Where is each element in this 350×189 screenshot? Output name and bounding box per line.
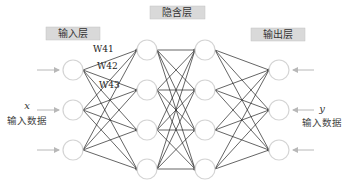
- hidden-layer-label-text: 隐含层: [162, 6, 192, 18]
- node-hidden2-1: [195, 80, 215, 100]
- output-layer-label: 输出层: [251, 28, 305, 41]
- output-layer-label-text: 输出层: [263, 28, 293, 40]
- node-output-1: [269, 100, 289, 120]
- node-input-2: [63, 140, 83, 160]
- edge-input-2-hidden1-3: [83, 150, 137, 169]
- node-output-0: [269, 60, 289, 80]
- edge-hidden2-1-output-0: [215, 70, 269, 90]
- edge-hidden2-3-output-0: [215, 70, 269, 169]
- edge-hidden2-2-output-0: [215, 70, 269, 130]
- node-input-1: [63, 100, 83, 120]
- edge-hidden2-0-output-0: [215, 50, 269, 70]
- edge-hidden2-3-output-2: [215, 150, 269, 169]
- edge-input-2-hidden1-2: [83, 130, 137, 150]
- input-layer-label-text: 输入层: [58, 27, 88, 39]
- node-hidden1-2: [137, 120, 157, 140]
- input-layer-label: 输入层: [46, 27, 100, 40]
- node-output-2: [269, 140, 289, 160]
- node-hidden2-0: [195, 40, 215, 60]
- node-hidden2-2: [195, 120, 215, 140]
- weight-label-w41: W41: [93, 44, 114, 54]
- neural-network-diagram: 输入层 隐含层 输出层 W41 W42 W43 x 输入数据 y 输入数据: [0, 0, 350, 189]
- output-variable-y: y: [318, 103, 325, 114]
- weight-label-w43: W43: [99, 80, 120, 90]
- output-data-caption: 输入数据: [302, 117, 342, 128]
- node-input-0: [63, 60, 83, 80]
- input-variable-x: x: [24, 100, 30, 111]
- weight-label-w42: W42: [97, 61, 118, 71]
- node-hidden1-1: [137, 80, 157, 100]
- input-data-caption: 输入数据: [7, 115, 47, 126]
- node-hidden2-3: [195, 159, 215, 179]
- hidden-layer-label: 隐含层: [150, 6, 205, 19]
- edge-input-2-hidden1-1: [83, 90, 137, 150]
- node-hidden1-0: [137, 40, 157, 60]
- node-hidden1-3: [137, 159, 157, 179]
